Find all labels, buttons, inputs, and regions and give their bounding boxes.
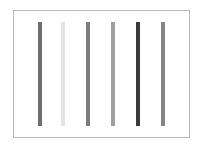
bar-6 [161,22,165,126]
bar-3 [86,22,90,126]
bar-1 [38,22,42,126]
bar-2 [61,22,65,126]
figure-canvas [0,0,202,150]
bar-4 [111,22,115,126]
bar-5 [136,22,140,126]
plot-axes [13,10,190,138]
plot-area [14,11,189,137]
